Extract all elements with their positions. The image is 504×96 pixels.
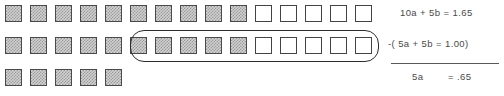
shaded-square-tile [105, 5, 122, 22]
manipulatives-diagram: 10a + 5b = 1.65 -( 5a + 5b = 1.00) 5a = … [0, 0, 504, 96]
empty-square-tile [255, 5, 272, 22]
shaded-square-tile [30, 37, 47, 54]
shaded-square-tile [5, 37, 22, 54]
shaded-square-tile [55, 69, 72, 86]
shaded-square-tile [230, 5, 247, 22]
shaded-square-tile [105, 69, 122, 86]
shaded-square-tile [180, 37, 197, 54]
shaded-square-tile [80, 5, 97, 22]
equation-line-2: -( 5a + 5b = 1.00) [388, 38, 469, 49]
shaded-square-tile [180, 5, 197, 22]
shaded-square-tile [155, 5, 172, 22]
shaded-square-tile [5, 5, 22, 22]
empty-square-tile [355, 5, 372, 22]
shaded-square-tile [30, 5, 47, 22]
shaded-square-tile [230, 37, 247, 54]
shaded-square-tile [80, 37, 97, 54]
empty-square-tile [355, 37, 372, 54]
equation-result-lhs: 5a [412, 71, 423, 82]
equation-rule [391, 63, 499, 64]
shaded-square-tile [205, 5, 222, 22]
empty-square-tile [280, 37, 297, 54]
equation-result-rhs: = .65 [448, 71, 471, 82]
shaded-square-tile [130, 37, 147, 54]
shaded-square-tile [55, 5, 72, 22]
shaded-square-tile [105, 37, 122, 54]
empty-square-tile [305, 5, 322, 22]
empty-square-tile [305, 37, 322, 54]
shaded-square-tile [30, 69, 47, 86]
empty-square-tile [330, 5, 347, 22]
equation-line-1: 10a + 5b = 1.65 [400, 7, 473, 18]
empty-square-tile [330, 37, 347, 54]
shaded-square-tile [5, 69, 22, 86]
empty-square-tile [255, 37, 272, 54]
shaded-square-tile [55, 37, 72, 54]
shaded-square-tile [130, 5, 147, 22]
empty-square-tile [280, 5, 297, 22]
shaded-square-tile [205, 37, 222, 54]
equation-block: 10a + 5b = 1.65 -( 5a + 5b = 1.00) 5a = … [388, 0, 504, 96]
shaded-square-tile [80, 69, 97, 86]
shaded-square-tile [155, 37, 172, 54]
